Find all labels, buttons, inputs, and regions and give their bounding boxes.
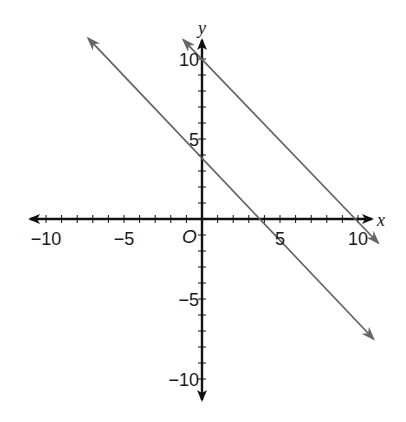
x-tick-label: 5	[275, 229, 285, 249]
coordinate-plane-figure: −10−5510 105−5−10 x y O	[0, 0, 406, 422]
x-tick-label: 10	[348, 229, 368, 249]
plotted-lines	[88, 38, 378, 339]
y-tick-label: −5	[178, 290, 199, 310]
origin-label: O	[182, 226, 197, 247]
line-series-1	[88, 38, 373, 339]
line-series-2	[183, 40, 378, 243]
y-tick-label: 5	[189, 130, 199, 150]
x-tick-label: −10	[31, 229, 62, 249]
y-tick-label: −10	[168, 370, 199, 390]
x-axis-label: x	[376, 210, 385, 230]
x-tick-labels: −10−5510	[31, 229, 368, 249]
y-tick-label: 10	[179, 50, 199, 70]
x-tick-label: −5	[114, 229, 135, 249]
y-axis-label: y	[196, 18, 206, 38]
